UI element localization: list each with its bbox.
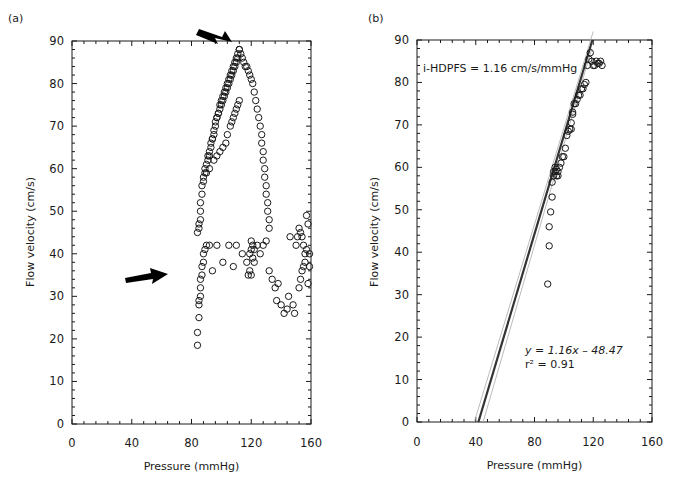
y-tick-label: 80 xyxy=(49,77,64,91)
data-point xyxy=(546,224,552,230)
data-point xyxy=(232,110,238,116)
data-point xyxy=(300,263,306,269)
data-point xyxy=(260,157,266,163)
data-point xyxy=(220,259,226,265)
data-point xyxy=(297,276,303,282)
data-point xyxy=(200,251,206,257)
data-point xyxy=(254,106,260,112)
data-point xyxy=(567,126,573,132)
data-point xyxy=(194,229,200,235)
y-tick-label: 70 xyxy=(49,119,64,133)
data-point xyxy=(197,217,203,223)
panel-a-scatter-points xyxy=(194,46,312,348)
data-point xyxy=(209,268,215,274)
data-point xyxy=(239,251,245,257)
y-tick-label: 70 xyxy=(394,118,409,132)
panel-a-x-axis-title: Pressure (mmHg) xyxy=(144,460,240,473)
data-point xyxy=(250,80,256,86)
data-point xyxy=(545,281,551,287)
panel-a-y-axis-title: Flow velocity (cm/s) xyxy=(24,177,37,287)
data-point xyxy=(205,153,211,159)
data-point xyxy=(197,208,203,214)
data-point xyxy=(196,297,202,303)
panel-b-scatter-points xyxy=(545,50,606,288)
data-point xyxy=(200,259,206,265)
data-point xyxy=(247,72,253,78)
data-point xyxy=(561,154,567,160)
data-point xyxy=(256,114,262,120)
x-tick-label: 80 xyxy=(527,435,542,449)
data-point xyxy=(259,131,265,137)
data-point xyxy=(266,217,272,223)
panel-a-frame xyxy=(72,41,311,424)
cluster-arrow-icon xyxy=(125,268,168,284)
data-point xyxy=(230,114,236,120)
data-point xyxy=(261,165,267,171)
data-point xyxy=(257,251,263,257)
panel-b-x-axis-title: Pressure (mmHg) xyxy=(487,459,583,472)
panel-b-y-tick-labels: 0 10 20 30 40 50 60 70 80 90 xyxy=(394,33,409,429)
data-point xyxy=(264,208,270,214)
data-point xyxy=(287,234,293,240)
data-point xyxy=(235,102,241,108)
data-point xyxy=(299,234,305,240)
panel-b-x-tick-labels: 0 40 80 120 160 xyxy=(413,435,663,449)
data-point xyxy=(209,136,215,142)
x-tick-label: 40 xyxy=(124,436,139,450)
x-tick-label: 160 xyxy=(641,435,663,449)
data-point xyxy=(229,119,235,125)
data-point xyxy=(266,225,272,231)
data-point xyxy=(261,174,267,180)
data-point xyxy=(206,148,212,154)
panel-b-label: (b) xyxy=(368,12,384,25)
y-tick-label: 20 xyxy=(394,330,409,344)
data-point xyxy=(224,131,230,137)
panel-b-y-axis-title: Flow velocity (cm/s) xyxy=(368,177,381,287)
x-tick-label: 120 xyxy=(240,436,262,450)
data-point xyxy=(211,127,217,133)
data-point xyxy=(546,243,552,249)
data-point xyxy=(549,194,555,200)
data-point xyxy=(293,242,299,248)
data-point xyxy=(278,302,284,308)
peak-arrow-icon xyxy=(196,29,232,44)
figure: (a) 0 40 80 120 160 0 10 20 30 40 50 60 … xyxy=(0,0,679,491)
data-point xyxy=(227,123,233,129)
panel-a: (a) 0 40 80 120 160 0 10 20 30 40 50 60 … xyxy=(8,12,322,473)
data-point xyxy=(266,268,272,274)
panel-b: (b) 0 40 80 120 160 0 10 20 30 40 50 60 … xyxy=(368,12,663,472)
x-tick-label: 120 xyxy=(582,435,604,449)
y-tick-label: 10 xyxy=(49,374,64,388)
data-point xyxy=(236,97,242,103)
data-point xyxy=(296,225,302,231)
data-point xyxy=(251,259,257,265)
r-squared-value: r² = 0.91 xyxy=(525,358,575,371)
data-point xyxy=(194,329,200,335)
data-point xyxy=(244,259,250,265)
y-tick-label: 60 xyxy=(394,160,409,174)
y-tick-label: 0 xyxy=(402,415,409,429)
data-point xyxy=(253,97,259,103)
data-point xyxy=(285,293,291,299)
data-point xyxy=(290,302,296,308)
data-point xyxy=(305,221,311,227)
y-tick-label: 50 xyxy=(49,204,64,218)
data-point xyxy=(236,46,242,52)
data-point xyxy=(296,285,302,291)
panel-a-ticks xyxy=(72,41,311,424)
data-point xyxy=(199,191,205,197)
data-point xyxy=(199,263,205,269)
data-point xyxy=(199,272,205,278)
data-point xyxy=(197,285,203,291)
x-tick-label: 40 xyxy=(468,435,483,449)
data-point xyxy=(547,209,553,215)
y-tick-label: 80 xyxy=(394,75,409,89)
x-tick-label: 160 xyxy=(300,436,322,450)
regression-equation: y = 1.16x – 48.47 xyxy=(524,344,623,357)
data-point xyxy=(306,263,312,269)
data-point xyxy=(208,140,214,146)
y-tick-label: 40 xyxy=(394,245,409,259)
y-tick-label: 90 xyxy=(394,33,409,47)
data-point xyxy=(248,76,254,82)
x-tick-label: 80 xyxy=(184,436,199,450)
